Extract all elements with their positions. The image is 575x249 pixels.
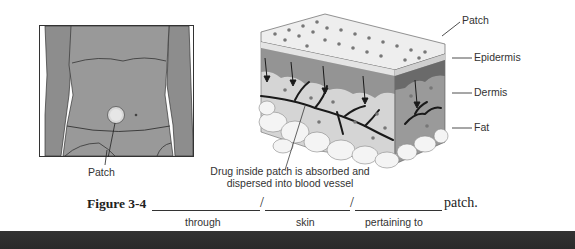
torso-drawing-icon [39,25,194,157]
caption-line-1: Drug inside patch is absorbed and [205,165,375,177]
label-patch: Patch [462,14,489,26]
drug-absorption-caption: Drug inside patch is absorbed and disper… [205,165,375,189]
blank-pertaining-to[interactable] [355,197,442,215]
label-dermis: Dermis [474,86,507,98]
torso-patch-label: Patch [88,166,115,178]
torso-illustration [39,25,194,157]
hint-skin: skin [296,216,315,228]
skin-cross-section-diagram [255,10,470,170]
hint-pertaining-to: pertaining to [365,216,423,228]
separator-1: / [260,195,264,211]
hint-through: through [185,216,221,228]
blank-through[interactable] [152,197,260,215]
skin-layers-icon [255,10,470,170]
exercise-ending: patch. [444,195,478,211]
caption-line-2: dispersed into blood vessel [205,177,375,189]
blank-skin[interactable] [265,197,350,215]
label-fat: Fat [474,121,489,133]
page-bottom-bar [0,231,575,249]
figure-number: Figure 3-4 [87,196,146,212]
layer-leader-lines [440,14,480,134]
separator-2: / [350,195,354,211]
label-epidermis: Epidermis [474,51,521,63]
